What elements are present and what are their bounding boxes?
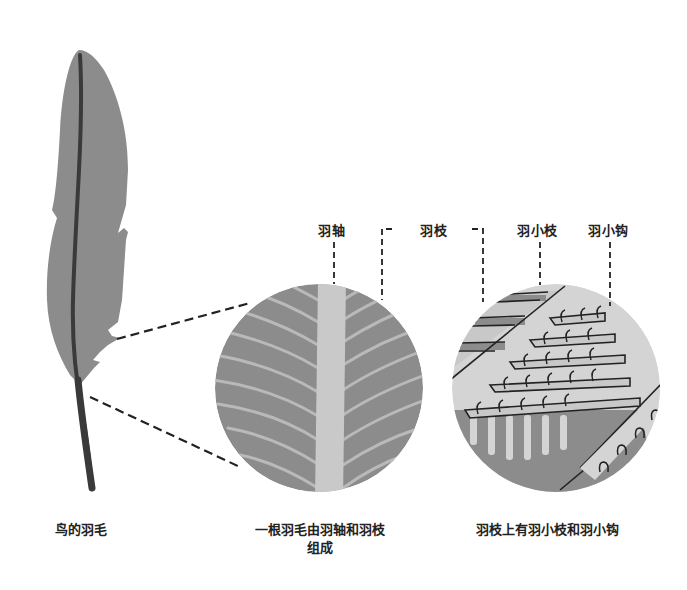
caption-composition-line1: 一根羽毛由羽轴和羽枝 xyxy=(240,521,400,539)
feather-vane xyxy=(47,50,128,385)
rachis-barbs-magnified xyxy=(214,276,425,500)
caption-composition-line2: 组成 xyxy=(240,539,400,557)
barb-leader-right xyxy=(472,229,483,302)
rachis xyxy=(315,280,346,500)
feather-quill xyxy=(78,380,92,488)
label-barbicel: 羽小钩 xyxy=(588,220,629,239)
caption-composition: 一根羽毛由羽轴和羽枝 组成 xyxy=(240,521,400,557)
caption-feather: 鸟的羽毛 xyxy=(55,521,107,539)
label-rachis: 羽轴 xyxy=(318,220,345,239)
feather-illustration xyxy=(47,50,128,488)
feather-structure-diagram xyxy=(0,0,687,590)
label-barbule: 羽小枝 xyxy=(517,220,558,239)
barb-leader-left xyxy=(382,229,392,300)
caption-barb-detail: 羽枝上有羽小枝和羽小钩 xyxy=(476,521,619,539)
barbules-hooks-magnified xyxy=(450,284,670,500)
label-barb: 羽枝 xyxy=(420,220,447,239)
